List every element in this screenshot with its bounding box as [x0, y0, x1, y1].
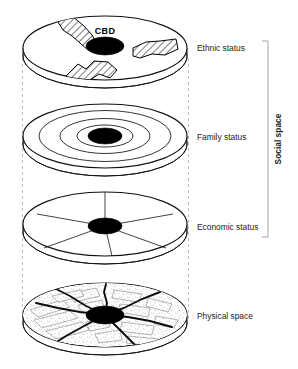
layer-economic-status[interactable]: Economic status — [23, 192, 258, 264]
layer-physical-space[interactable]: Physical space — [23, 283, 253, 355]
layer-label-physical: Physical space — [197, 311, 253, 321]
cbd-core-physical — [86, 306, 124, 324]
layer-label-ethnic: Ethnic status — [197, 43, 245, 53]
social-space-bracket-group: Social space — [262, 41, 283, 237]
diagram-canvas: CBD Ethnic status Family status Economic… — [0, 0, 298, 369]
layer-label-family: Family status — [197, 132, 246, 142]
layer-ethnic-status[interactable]: CBD Ethnic status — [23, 16, 245, 88]
social-space-bracket — [262, 41, 268, 237]
layered-disc-diagram: CBD Ethnic status Family status Economic… — [0, 0, 298, 369]
layer-label-economic: Economic status — [197, 222, 258, 232]
social-space-label: Social space — [273, 113, 283, 164]
alignment-guides — [23, 58, 189, 320]
cbd-label: CBD — [95, 26, 116, 36]
cbd-core-ethnic — [86, 37, 124, 55]
layer-family-status[interactable]: Family status — [23, 104, 246, 176]
cbd-core-economic — [88, 218, 122, 234]
cbd-core-family — [88, 128, 122, 144]
